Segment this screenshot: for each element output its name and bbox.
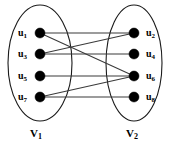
vertex-u1 bbox=[35, 28, 45, 38]
vertex-u5 bbox=[35, 71, 45, 81]
edge-group bbox=[40, 33, 134, 97]
set-label-subscript-v1: 1 bbox=[38, 132, 42, 141]
vertex-u6 bbox=[129, 71, 139, 81]
edge-u7-u6 bbox=[40, 76, 134, 97]
edge-u3-u2 bbox=[40, 33, 134, 54]
vertex-u4 bbox=[129, 49, 139, 59]
vertex-label-u6: u6 bbox=[146, 71, 155, 81]
vertex-label-subscript-u8: 8 bbox=[152, 96, 156, 104]
vertex-label-u5: u5 bbox=[18, 71, 27, 81]
set-ellipses bbox=[8, 5, 162, 121]
vertex-label-base-u1: u bbox=[18, 27, 24, 38]
vertex-label-subscript-u5: 5 bbox=[24, 75, 28, 83]
vertex-label-subscript-u1: 1 bbox=[24, 32, 28, 40]
set-label-subscript-v2: 2 bbox=[134, 132, 138, 141]
vertex-label-u2: u2 bbox=[146, 28, 155, 38]
vertex-label-base-u2: u bbox=[146, 27, 152, 38]
vertex-label-subscript-u6: 6 bbox=[152, 75, 156, 83]
bipartite-graph-figure: u1u3u5u7u2u4u6u8V1V2 bbox=[0, 0, 174, 150]
vertex-u7 bbox=[35, 92, 45, 102]
vertex-label-u7: u7 bbox=[18, 92, 27, 102]
vertex-label-base-u3: u bbox=[18, 48, 24, 59]
set-label-base-v1: V bbox=[30, 127, 38, 139]
vertex-label-u3: u3 bbox=[18, 49, 27, 59]
node-group bbox=[35, 28, 139, 102]
vertex-label-base-u5: u bbox=[18, 70, 24, 81]
vertex-label-u1: u1 bbox=[18, 28, 27, 38]
vertex-u3 bbox=[35, 49, 45, 59]
vertex-u8 bbox=[129, 92, 139, 102]
set-ellipse-v1 bbox=[8, 5, 72, 121]
vertex-label-u8: u8 bbox=[146, 92, 155, 102]
vertex-label-base-u7: u bbox=[18, 91, 24, 102]
vertex-label-subscript-u7: 7 bbox=[24, 96, 28, 104]
vertex-label-base-u4: u bbox=[146, 48, 152, 59]
vertex-label-u4: u4 bbox=[146, 49, 155, 59]
vertex-label-base-u8: u bbox=[146, 91, 152, 102]
vertex-label-base-u6: u bbox=[146, 70, 152, 81]
vertex-label-subscript-u2: 2 bbox=[152, 32, 156, 40]
vertex-label-subscript-u4: 4 bbox=[152, 53, 156, 61]
set-label-v2: V2 bbox=[126, 128, 138, 139]
vertex-u2 bbox=[129, 28, 139, 38]
set-label-v1: V1 bbox=[30, 128, 42, 139]
set-label-base-v2: V bbox=[126, 127, 134, 139]
vertex-label-subscript-u3: 3 bbox=[24, 53, 28, 61]
